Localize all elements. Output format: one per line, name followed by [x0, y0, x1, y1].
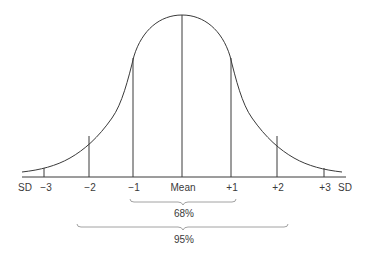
axis-unit-right: SD — [338, 183, 352, 193]
tick-label-minus-1: −1 — [128, 183, 139, 193]
label-68-percent: 68% — [174, 209, 194, 219]
tick-label-plus-3: +3 — [319, 183, 330, 193]
label-95-percent: 95% — [174, 235, 194, 245]
bracket-68 — [130, 199, 236, 205]
tick-label-plus-2: +2 — [272, 183, 283, 193]
bracket-95 — [77, 224, 288, 230]
tick-label-mean: Mean — [170, 183, 195, 193]
tick-label-minus-3: −3 — [40, 183, 51, 193]
tick-label-plus-1: +1 — [226, 183, 237, 193]
tick-label-minus-2: −2 — [84, 183, 95, 193]
axis-unit-left: SD — [18, 183, 32, 193]
